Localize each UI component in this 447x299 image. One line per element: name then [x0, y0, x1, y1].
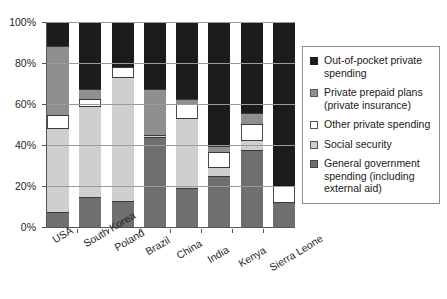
bar-segment [208, 177, 230, 227]
grid-line [47, 104, 295, 105]
bar-column [79, 22, 101, 227]
grid-line [47, 145, 295, 146]
bar-column [176, 22, 198, 227]
bar-segment [241, 22, 263, 114]
segment-divider [241, 150, 263, 151]
segment-divider [144, 137, 166, 138]
y-axis-tick-label: 0% [21, 221, 36, 233]
segment-divider [79, 99, 101, 100]
legend: Out-of-pocket private spendingPrivate pr… [302, 46, 440, 204]
segment-divider [208, 146, 230, 147]
legend-item-label: Other private spending [324, 118, 430, 131]
segment-divider [176, 188, 198, 189]
segment-divider [79, 197, 101, 198]
x-axis-tick-mark [77, 229, 78, 233]
bar-segment [241, 125, 263, 141]
bar-column [241, 22, 263, 227]
bar-segment [79, 22, 101, 90]
segment-divider [112, 77, 134, 78]
x-axis-tick-label: Brazil [143, 233, 172, 257]
bar-column [208, 22, 230, 227]
bar-column [112, 22, 134, 227]
segment-divider [112, 201, 134, 202]
x-axis-tick-mark [201, 229, 202, 233]
bar-segment [176, 189, 198, 227]
bar-segment [144, 22, 166, 90]
y-axis-tick-label: 40% [15, 139, 36, 151]
x-axis-tick-mark [232, 229, 233, 233]
x-axis-tick-mark [170, 229, 171, 233]
segment-divider [208, 167, 230, 168]
legend-item: General government spending (including e… [310, 157, 433, 195]
y-axis-tick-label: 20% [15, 180, 36, 192]
bars-layer [47, 22, 295, 227]
bar-segment [241, 151, 263, 227]
bar-segment [112, 22, 134, 68]
segment-divider [176, 99, 198, 100]
x-axis-tick-label: Sierra Leone [267, 232, 325, 273]
segment-divider [144, 135, 166, 136]
bar-column [273, 22, 295, 227]
x-axis-tick-mark [263, 229, 264, 233]
y-axis-tick-label: 100% [9, 16, 36, 28]
bar-segment [47, 129, 69, 213]
bar-segment [176, 105, 198, 119]
bar-segment [176, 119, 198, 189]
bar-segment [208, 22, 230, 147]
segment-divider [176, 118, 198, 119]
health-spending-stacked-bar-chart: 0%20%40%60%80%100% USASouth KoreaPolandB… [0, 0, 447, 299]
segment-divider [79, 89, 101, 90]
segment-divider [112, 67, 134, 68]
segment-divider [208, 152, 230, 153]
segment-divider [241, 140, 263, 141]
bar-segment [208, 153, 230, 167]
bar-segment [176, 22, 198, 100]
bar-segment [144, 90, 166, 136]
legend-item: Other private spending [310, 118, 433, 131]
legend-swatch-light-gray [310, 141, 318, 149]
legend-swatch-black [310, 57, 318, 65]
bar-segment [47, 47, 69, 117]
segment-divider [47, 128, 69, 129]
segment-divider [144, 89, 166, 90]
y-axis-tick-label: 60% [15, 98, 36, 110]
bar-column [47, 22, 69, 227]
segment-divider [273, 202, 295, 203]
bar-segment [273, 187, 295, 203]
grid-line [47, 186, 295, 187]
x-axis: USASouth KoreaPolandBrazilChinaIndiaKeny… [46, 229, 294, 299]
y-axis-tick-label: 80% [15, 57, 36, 69]
legend-item-label: Out-of-pocket private spending [324, 54, 433, 79]
plot-area [46, 22, 295, 228]
bar-segment [273, 203, 295, 227]
segment-divider [47, 212, 69, 213]
bar-segment [79, 107, 101, 198]
x-axis-tick-label: China [174, 237, 204, 261]
legend-item-label: Social security [324, 138, 392, 151]
segment-divider [47, 115, 69, 116]
grid-line [47, 22, 295, 23]
legend-swatch-dark-gray [310, 160, 318, 168]
bar-segment [112, 78, 134, 202]
legend-swatch-medium-gray [310, 89, 318, 97]
x-axis-tick-label: Kenya [236, 244, 268, 270]
x-axis-tick-label: India [205, 243, 231, 265]
legend-item: Social security [310, 138, 433, 151]
legend-swatch-white [310, 121, 318, 129]
grid-line [47, 63, 295, 64]
segment-divider [208, 176, 230, 177]
segment-divider [241, 124, 263, 125]
bar-segment [47, 22, 69, 47]
legend-item: Out-of-pocket private spending [310, 54, 433, 79]
segment-divider [79, 106, 101, 107]
legend-item: Private prepaid plans (private insurance… [310, 86, 433, 111]
bar-segment [144, 138, 166, 227]
y-axis: 0%20%40%60%80%100% [0, 0, 42, 227]
segment-divider [47, 46, 69, 47]
bar-column [144, 22, 166, 227]
legend-item-label: General government spending (including e… [324, 157, 433, 195]
legend-item-label: Private prepaid plans (private insurance… [324, 86, 433, 111]
segment-divider [241, 113, 263, 114]
bar-segment [79, 198, 101, 227]
